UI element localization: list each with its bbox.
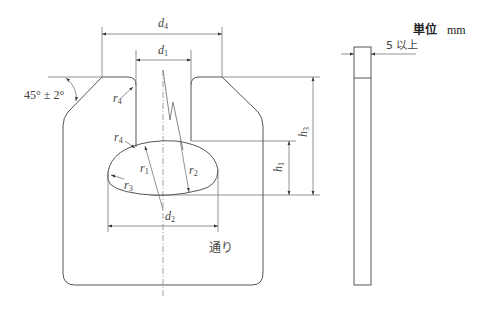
leader-r2 [180, 140, 189, 192]
unit-value: mm [447, 23, 466, 37]
leader-r3 [111, 175, 124, 179]
unit-label: 単位 [413, 23, 437, 37]
label-r2: r2 [189, 164, 198, 178]
label-r4-top: r4 [113, 92, 122, 106]
leader-r1 [145, 146, 163, 210]
unit-note: 単位mm [413, 20, 466, 38]
label-r3: r3 [124, 179, 133, 193]
label-h3: h3 [297, 127, 311, 137]
label-h1: h1 [272, 162, 286, 172]
label-d4: d4 [158, 17, 168, 31]
label-d1: d1 [158, 44, 168, 58]
dim-angle [66, 78, 76, 101]
label-d2: d2 [165, 210, 175, 224]
label-r1: r1 [140, 162, 149, 176]
gauge-drawing [0, 0, 497, 311]
label-pass-side: 通り [209, 242, 233, 254]
side-view [354, 47, 371, 285]
leader-r4-top [121, 87, 133, 98]
label-thickness: 5 以上 [386, 40, 419, 51]
label-angle: 45° ± 2° [24, 89, 64, 101]
break-mark [163, 70, 183, 150]
label-r4-mid: r4 [114, 131, 123, 145]
